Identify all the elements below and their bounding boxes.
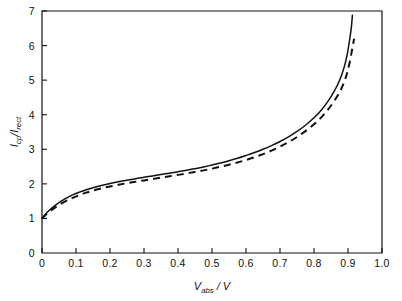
chart-figure: 00.10.20.30.40.50.60.70.80.91.0 01234567…: [0, 0, 402, 301]
y-axis-title: Icp/Irect: [8, 116, 23, 147]
y-tick-label: 6: [29, 40, 35, 52]
x-tick-label: 0: [39, 257, 45, 269]
line-chart: 00.10.20.30.40.50.60.70.80.91.0 01234567…: [0, 0, 402, 301]
x-tick-label: 0.7: [272, 257, 288, 269]
x-tick-label: 0.1: [68, 257, 84, 269]
x-tick-label: 0.3: [136, 257, 152, 269]
x-axis-tick-labels: 00.10.20.30.40.50.60.70.80.91.0: [39, 257, 390, 269]
y-tick-label: 0: [29, 247, 35, 259]
x-tick-label: 0.5: [204, 257, 220, 269]
svg-text:Vabs / V: Vabs / V: [194, 280, 232, 295]
dashed-curve: [42, 39, 354, 219]
x-tick-label: 1.0: [374, 257, 390, 269]
y-tick-label: 1: [29, 212, 35, 224]
y-tick-label: 3: [29, 143, 35, 155]
x-tick-label: 0.2: [102, 257, 118, 269]
y-axis-ticks: [42, 11, 47, 218]
axis-frame: [42, 11, 382, 253]
plot-frame: [42, 11, 382, 253]
data-curves: [42, 15, 354, 218]
y-tick-label: 7: [29, 5, 35, 17]
solid-curve: [42, 15, 352, 218]
y-tick-label: 5: [29, 74, 35, 86]
x-tick-label: 0.9: [340, 257, 356, 269]
x-axis-title: Vabs / V: [194, 280, 232, 295]
y-tick-label: 4: [29, 109, 35, 121]
x-tick-label: 0.4: [170, 257, 186, 269]
y-axis-tick-labels: 01234567: [29, 5, 35, 259]
x-tick-label: 0.6: [238, 257, 254, 269]
svg-text:Icp/Irect: Icp/Irect: [8, 116, 23, 147]
x-tick-label: 0.8: [306, 257, 322, 269]
x-axis-ticks: [42, 248, 382, 253]
y-tick-label: 2: [29, 178, 35, 190]
